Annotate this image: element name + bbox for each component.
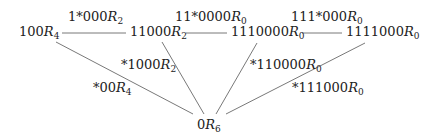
edge-subscript: 0 xyxy=(316,64,322,74)
edge-subscript: 2 xyxy=(170,64,176,74)
script-r-symbol: R xyxy=(171,24,181,39)
edge-prefix: *110000 xyxy=(250,57,306,72)
edge-label-1x000-r2: 1*000R2 xyxy=(68,10,123,26)
edge-subscript: 4 xyxy=(126,87,132,97)
script-r-symbol: R xyxy=(108,9,118,24)
script-r-symbol: R xyxy=(289,24,299,39)
edge-prefix: *1000 xyxy=(121,57,161,72)
script-r-symbol: R xyxy=(205,117,215,132)
node-subscript: 4 xyxy=(54,31,60,41)
edge-label-111x000-r0: 111*000R0 xyxy=(291,10,363,26)
edge-1110000-0 xyxy=(216,43,257,114)
edge-prefix: 1*000 xyxy=(68,9,108,24)
edge-11000-0 xyxy=(162,42,204,114)
node-prefix: 1110000 xyxy=(231,24,289,39)
script-r-symbol: R xyxy=(347,9,357,24)
node-0-r6: 0R6 xyxy=(197,118,221,134)
node-100-r4: 100R4 xyxy=(19,25,59,41)
edge-label-x00-r4: *00R4 xyxy=(93,81,132,97)
edge-label-x110000-r0: *110000R0 xyxy=(250,58,322,74)
edge-label-x1000-r2: *1000R2 xyxy=(121,58,176,74)
node-1110000-r0: 1110000R0 xyxy=(231,25,304,41)
node-prefix: 11000 xyxy=(130,24,171,39)
node-subscript: 0 xyxy=(299,31,305,41)
edge-prefix: 111*000 xyxy=(291,9,347,24)
edge-prefix: *00 xyxy=(93,80,116,95)
edge-prefix: *111000 xyxy=(292,80,348,95)
node-prefix: 100 xyxy=(19,24,44,39)
script-r-symbol: R xyxy=(404,24,414,39)
node-subscript: 2 xyxy=(181,31,187,41)
script-r-symbol: R xyxy=(306,57,316,72)
script-r-symbol: R xyxy=(348,80,358,95)
edge-subscript: 0 xyxy=(358,87,364,97)
edge-subscript: 0 xyxy=(241,16,247,26)
edge-1111000-0 xyxy=(226,43,365,114)
edge-subscript: 0 xyxy=(357,16,363,26)
node-prefix: 1111000 xyxy=(346,24,404,39)
edge-label-x111000-r0: *111000R0 xyxy=(292,81,364,97)
edge-subscript: 2 xyxy=(117,16,123,26)
script-r-symbol: R xyxy=(44,24,54,39)
edge-label-11x0000-r0: 11*0000R0 xyxy=(175,10,247,26)
edge-100-0 xyxy=(56,42,193,114)
node-1111000-r0: 1111000R0 xyxy=(346,25,419,41)
script-r-symbol: R xyxy=(231,9,241,24)
script-r-symbol: R xyxy=(161,57,171,72)
node-11000-r2: 11000R2 xyxy=(130,25,187,41)
node-subscript: 0 xyxy=(414,31,420,41)
edge-prefix: 11*0000 xyxy=(175,9,231,24)
node-subscript: 6 xyxy=(215,124,221,134)
script-r-symbol: R xyxy=(116,80,126,95)
